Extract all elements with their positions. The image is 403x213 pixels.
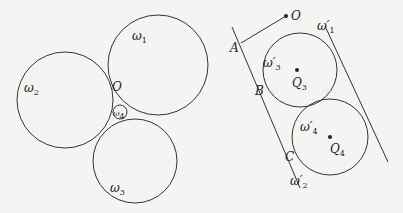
point-a-label: A [229,41,239,55]
omega4-label: ω4 [113,109,125,121]
omega2-circle [17,52,113,148]
omega3p-circle [263,33,337,107]
point-o [284,14,288,18]
point-o-label-right: O [291,9,301,23]
omega3-label: ω3 [110,181,125,197]
omega4p-label: ω′4 [300,120,318,136]
left-figure: ω1ω2ω3ω4O [17,15,208,203]
point-b-label: B [254,84,264,98]
center-q4-point [328,135,332,139]
line-omega2p-label: ω′2 [290,174,308,190]
line-omega1p-label: ω′1 [317,19,335,35]
omega2-label: ω2 [24,81,39,97]
omega3-circle [93,119,177,203]
geometry-diagram: ω1ω2ω3ω4O Oω′3ω′4Q3Q4ABCω′1ω′2 [0,0,403,213]
center-q3-label: Q3 [292,76,307,92]
center-q4-label: Q4 [330,142,345,158]
point-c-label: C [285,150,294,164]
omega1-circle [108,15,208,115]
right-figure: Oω′3ω′4Q3Q4ABCω′1ω′2 [229,9,388,190]
point-o-label: O [112,80,122,94]
omega1-label: ω1 [132,29,147,45]
center-q3-point [295,68,299,72]
omega3p-label: ω′3 [263,56,281,72]
